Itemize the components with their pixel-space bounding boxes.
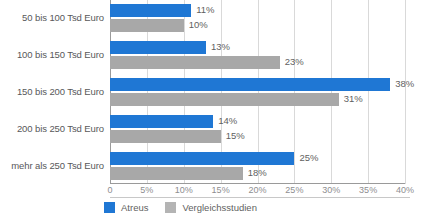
bar-atreus bbox=[110, 152, 294, 165]
x-tick-label: 35% bbox=[359, 185, 377, 195]
bar-value-label: 11% bbox=[196, 3, 214, 17]
category-label: 200 bis 250 Tsd Euro bbox=[0, 123, 104, 134]
bar-row: 11% bbox=[110, 4, 405, 17]
x-tick-label: 30% bbox=[322, 185, 340, 195]
bar-row: 23% bbox=[110, 56, 405, 69]
bar-value-label: 38% bbox=[395, 77, 414, 91]
bar-value-label: 13% bbox=[211, 40, 230, 54]
x-tick-label: 15% bbox=[212, 185, 230, 195]
bar-row: 10% bbox=[110, 19, 405, 32]
x-tick-label: 5% bbox=[140, 185, 153, 195]
chart-legend: AtreusVergleichsstudien bbox=[104, 200, 257, 214]
bar-value-label: 14% bbox=[218, 114, 237, 128]
bar-row: 18% bbox=[110, 167, 405, 180]
bar-atreus bbox=[110, 115, 213, 128]
category-label: 150 bis 200 Tsd Euro bbox=[0, 86, 104, 97]
legend-item[interactable]: Atreus bbox=[104, 202, 148, 213]
bar-vergleichsstudien bbox=[110, 167, 243, 180]
bar-value-label: 18% bbox=[248, 166, 267, 180]
x-tick-label: 10% bbox=[175, 185, 193, 195]
category-label: 50 bis 100 Tsd Euro bbox=[0, 12, 104, 23]
category-label: mehr als 250 Tsd Euro bbox=[0, 160, 104, 171]
bar-value-label: 31% bbox=[344, 92, 363, 106]
bar-row: 13% bbox=[110, 41, 405, 54]
bar-row: 38% bbox=[110, 78, 405, 91]
legend-swatch-icon bbox=[104, 202, 115, 213]
bar-atreus bbox=[110, 41, 206, 54]
bar-row: 31% bbox=[110, 93, 405, 106]
bar-chart: 50 bis 100 Tsd Euro100 bis 150 Tsd Euro1… bbox=[0, 0, 424, 217]
bar-vergleichsstudien bbox=[110, 130, 221, 143]
bar-value-label: 10% bbox=[189, 18, 208, 32]
bar-row: 25% bbox=[110, 152, 405, 165]
x-tick-label: 40% bbox=[396, 185, 414, 195]
bar-value-label: 25% bbox=[299, 151, 318, 165]
bar-vergleichsstudien bbox=[110, 19, 184, 32]
bar-row: 15% bbox=[110, 130, 405, 143]
bar-vergleichsstudien bbox=[110, 56, 280, 69]
category-label: 100 bis 150 Tsd Euro bbox=[0, 49, 104, 60]
legend-swatch-icon bbox=[165, 202, 176, 213]
bar-vergleichsstudien bbox=[110, 93, 339, 106]
x-tick-label: 20% bbox=[248, 185, 266, 195]
bar-value-label: 15% bbox=[226, 129, 245, 143]
bar-value-label: 23% bbox=[285, 55, 304, 69]
bar-row: 14% bbox=[110, 115, 405, 128]
bar-atreus bbox=[110, 78, 390, 91]
category-axis: 50 bis 100 Tsd Euro100 bis 150 Tsd Euro1… bbox=[0, 0, 104, 184]
x-tick-label: 25% bbox=[285, 185, 303, 195]
plot-area: 11%10%13%23%38%31%14%15%25%18% bbox=[110, 0, 405, 184]
bar-atreus bbox=[110, 4, 191, 17]
legend-item[interactable]: Vergleichsstudien bbox=[165, 202, 256, 213]
legend-label: Atreus bbox=[121, 202, 148, 213]
x-tick-label: 0 bbox=[107, 185, 112, 195]
axis-rule bbox=[110, 197, 410, 198]
legend-label: Vergleichsstudien bbox=[182, 202, 256, 213]
axis-baseline bbox=[110, 183, 405, 184]
gridline bbox=[405, 0, 406, 184]
